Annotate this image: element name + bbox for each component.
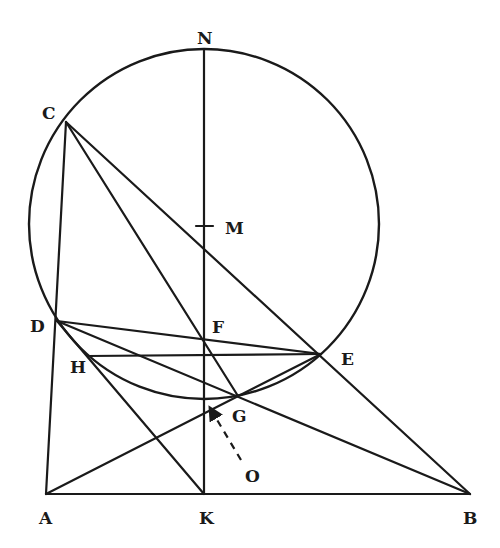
geometry-figure: N C M D F H E G O A K B	[0, 0, 500, 548]
segment-CA	[46, 122, 66, 494]
label-E: E	[341, 349, 354, 369]
label-M: M	[225, 218, 244, 238]
label-A: A	[38, 508, 53, 528]
label-C: C	[42, 103, 56, 123]
label-N: N	[197, 28, 213, 48]
label-D: D	[30, 316, 45, 336]
segment-DK	[57, 321, 204, 494]
label-O: O	[245, 466, 260, 486]
label-K: K	[199, 508, 215, 528]
segment-CB	[66, 122, 470, 494]
label-H: H	[70, 357, 86, 377]
label-F: F	[212, 317, 224, 337]
segment-HE	[88, 354, 321, 356]
label-B: B	[463, 508, 477, 528]
figure-canvas: N C M D F H E G O A K B	[0, 0, 500, 548]
label-G: G	[232, 406, 247, 426]
